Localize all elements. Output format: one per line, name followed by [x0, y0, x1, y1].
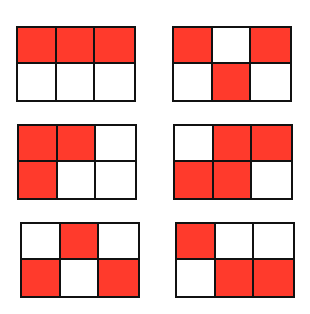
grid-4	[173, 124, 293, 200]
filled-cell	[18, 28, 57, 64]
empty-cell	[18, 64, 57, 100]
empty-cell	[254, 224, 293, 260]
filled-cell	[174, 28, 213, 64]
filled-cell	[216, 260, 255, 296]
empty-cell	[174, 64, 213, 100]
empty-cell	[96, 126, 135, 162]
filled-cell	[252, 126, 291, 162]
empty-cell	[177, 260, 216, 296]
filled-cell	[58, 126, 97, 162]
filled-cell	[214, 126, 253, 162]
empty-cell	[251, 64, 290, 100]
empty-cell	[175, 126, 214, 162]
filled-cell	[214, 162, 253, 198]
empty-cell	[99, 224, 138, 260]
empty-cell	[57, 64, 96, 100]
filled-cell	[251, 28, 290, 64]
filled-cell	[213, 64, 252, 100]
filled-cell	[95, 28, 134, 64]
empty-cell	[22, 224, 61, 260]
filled-cell	[22, 260, 61, 296]
filled-cell	[19, 162, 58, 198]
grid-6	[175, 222, 295, 298]
filled-cell	[61, 224, 100, 260]
grid-2	[172, 26, 292, 102]
filled-cell	[177, 224, 216, 260]
empty-cell	[96, 162, 135, 198]
empty-cell	[58, 162, 97, 198]
empty-cell	[216, 224, 255, 260]
empty-cell	[213, 28, 252, 64]
grid-3	[17, 124, 137, 200]
filled-cell	[254, 260, 293, 296]
empty-cell	[252, 162, 291, 198]
filled-cell	[175, 162, 214, 198]
grid-5	[20, 222, 140, 298]
empty-cell	[61, 260, 100, 296]
filled-cell	[57, 28, 96, 64]
filled-cell	[99, 260, 138, 296]
grid-1	[16, 26, 136, 102]
filled-cell	[19, 126, 58, 162]
empty-cell	[95, 64, 134, 100]
